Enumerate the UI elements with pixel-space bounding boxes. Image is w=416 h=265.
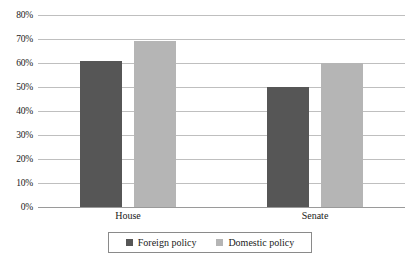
- y-axis-label-10: 10%: [16, 178, 33, 188]
- x-axis-label-house: House: [115, 210, 141, 221]
- bar-senate-domestic-policy: [321, 63, 363, 207]
- y-axis-label-50: 50%: [16, 82, 33, 92]
- x-axis-label-senate: Senate: [302, 210, 329, 221]
- gridline-0: 0%: [38, 207, 405, 208]
- plot-area: 80% 70% 60% 50% 40% 30% 20% 10% 0%: [38, 15, 405, 207]
- legend-item-domestic-policy[interactable]: Domestic policy: [216, 237, 294, 248]
- bars-layer: [38, 15, 405, 207]
- y-axis-label-80: 80%: [16, 10, 33, 20]
- legend-swatch-foreign-policy: [126, 239, 133, 246]
- legend-label-domestic-policy: Domestic policy: [228, 237, 294, 248]
- bar-house-domestic-policy: [134, 41, 176, 207]
- y-axis-label-30: 30%: [16, 130, 33, 140]
- bar-chart: 80% 70% 60% 50% 40% 30% 20% 10% 0%: [0, 0, 416, 265]
- legend-swatch-domestic-policy: [216, 239, 223, 246]
- legend-label-foreign-policy: Foreign policy: [138, 237, 197, 248]
- y-axis-label-0: 0%: [21, 202, 33, 212]
- chart-legend: Foreign policy Domestic policy: [108, 232, 312, 253]
- legend-item-foreign-policy[interactable]: Foreign policy: [126, 237, 197, 248]
- y-axis-label-60: 60%: [16, 58, 33, 68]
- bar-senate-foreign-policy: [267, 87, 309, 207]
- y-axis-label-40: 40%: [16, 106, 33, 116]
- y-axis-label-20: 20%: [16, 154, 33, 164]
- y-axis-label-70: 70%: [16, 34, 33, 44]
- bar-house-foreign-policy: [80, 61, 122, 207]
